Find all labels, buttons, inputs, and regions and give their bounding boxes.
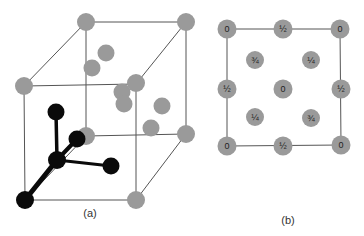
atom-bottom-mid: ½ [274,137,293,156]
atom-interior [116,96,133,113]
atom-center: 0 [274,80,293,99]
atom-top-left: 0 [218,20,237,39]
atom-inner-lower-right: ¾ [302,109,320,127]
caption-b: (b) [281,214,294,226]
svg-text:0: 0 [338,140,343,150]
panel-b-projection: 0 ½ 0 ¾ ¼ ½ 0 [218,20,351,227]
atom-top-right: 0 [331,20,350,39]
svg-text:½: ½ [223,84,231,94]
atom-black-center [48,151,66,169]
atom-interior [98,45,115,62]
svg-text:½: ½ [279,24,287,34]
svg-text:½: ½ [337,84,345,94]
svg-text:¾: ¾ [307,113,315,123]
svg-text:¼: ¼ [251,112,259,122]
atom-corner-front-top-left [15,77,33,95]
svg-text:¼: ¼ [307,55,315,65]
atom-black-right [103,158,120,175]
caption-a: (a) [83,207,96,219]
svg-text:0: 0 [224,24,229,34]
svg-text:0: 0 [224,141,229,151]
panel-a-unit-cell: (a) [15,13,195,219]
atom-black-corner-front-bottom-left [16,191,34,209]
projection-atoms: 0 ½ 0 ¾ ¼ ½ 0 [218,20,351,156]
figure-canvas: (a) 0 ½ 0 ¾ [0,0,364,236]
atom-right-mid: ½ [332,80,351,99]
atom-interior [143,120,160,137]
tetrahedral-cluster [16,104,120,210]
atom-corner-front-top-right [127,74,145,92]
atom-left-mid: ½ [218,80,237,99]
svg-text:0: 0 [280,84,285,94]
atom-bottom-left: 0 [218,137,237,156]
atom-inner-upper-right: ¼ [302,51,320,69]
atom-inner-upper-left: ¾ [246,51,264,69]
atom-bottom-right: 0 [332,136,351,155]
svg-text:¾: ¾ [251,55,259,65]
atom-interior [154,98,171,115]
atom-top-mid: ½ [274,20,293,39]
atom-interior [84,60,101,77]
atom-black-top [48,104,65,121]
svg-text:½: ½ [279,141,287,151]
atom-corner-back-top-left [77,13,95,31]
atom-inner-lower-left: ¼ [246,108,264,126]
atom-corner-back-bottom-right [177,125,195,143]
atom-corner-front-bottom-right [127,191,145,209]
atom-black-back [69,131,86,148]
atom-corner-back-top-right [177,13,195,31]
svg-text:0: 0 [337,24,342,34]
